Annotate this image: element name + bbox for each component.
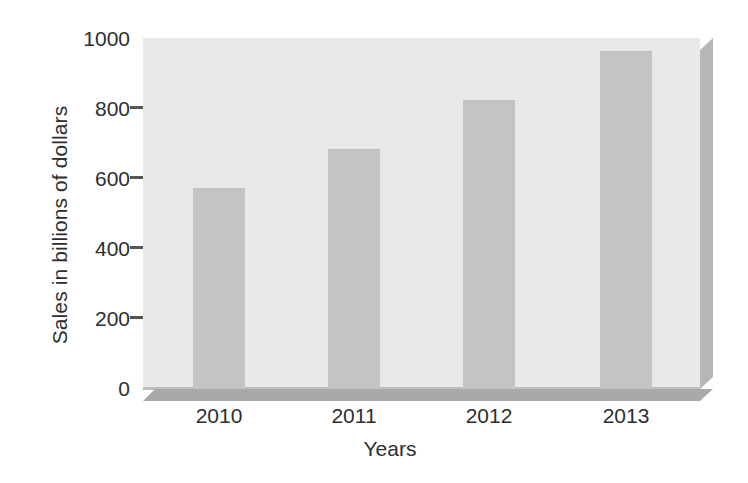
y-tick-label-600: 600 xyxy=(58,168,130,189)
y-tick-label-200: 200 xyxy=(58,308,130,329)
y-tick-mark-800 xyxy=(130,106,144,109)
y-axis-tick-labels: 1000 800 600 400 200 0 xyxy=(58,0,130,483)
x-tick-label-2013: 2013 xyxy=(581,404,671,428)
x-tick-label-2012: 2012 xyxy=(444,404,534,428)
plot-floor-face xyxy=(143,389,713,401)
x-tick-label-2010: 2010 xyxy=(174,404,264,428)
x-axis-title: Years xyxy=(140,437,640,461)
bars-layer xyxy=(143,38,700,389)
y-tick-mark-400 xyxy=(130,246,144,249)
bar-chart: Sales in billions of dollars 1000 800 60… xyxy=(0,0,748,483)
y-tick-label-400: 400 xyxy=(58,238,130,259)
y-tick-label-800: 800 xyxy=(58,98,130,119)
y-tick-mark-600 xyxy=(130,176,144,179)
bar-2013[interactable] xyxy=(600,51,652,389)
bar-2012[interactable] xyxy=(463,100,515,389)
y-tick-mark-200 xyxy=(130,316,144,319)
bar-2010[interactable] xyxy=(193,188,245,389)
x-tick-label-2011: 2011 xyxy=(309,404,399,428)
x-axis-tick-labels: 2010 2011 2012 2013 xyxy=(143,404,713,432)
y-tick-label-0: 0 xyxy=(58,378,130,399)
plot-right-face xyxy=(700,38,713,389)
y-tick-label-1000: 1000 xyxy=(58,28,130,49)
bar-2011[interactable] xyxy=(328,149,380,389)
plot-area xyxy=(143,38,713,400)
